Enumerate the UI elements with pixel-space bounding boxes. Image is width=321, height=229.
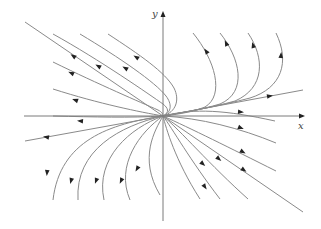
phase-portrait-diagram: y x xyxy=(0,0,321,229)
direction-arrow-icon xyxy=(240,166,248,173)
axes xyxy=(24,11,305,221)
trajectory-br-1 xyxy=(163,116,276,143)
trajectory-bl-4 xyxy=(125,116,163,200)
trajectory-tr-4 xyxy=(163,33,283,116)
direction-arrow-icon xyxy=(94,63,101,70)
trajectory-tr-1 xyxy=(163,33,216,116)
direction-arrow-icon xyxy=(68,178,74,185)
trajectory-br-4 xyxy=(163,116,220,199)
trajectory-tl-1 xyxy=(53,34,168,116)
direction-arrow-icon xyxy=(71,97,78,103)
trajectory-bl-5 xyxy=(149,116,163,195)
trajectory-tl-4 xyxy=(53,62,163,116)
direction-arrow-icon xyxy=(93,177,99,184)
direction-arrow-icon xyxy=(201,183,208,191)
direction-arrow-icon xyxy=(134,165,141,172)
direction-arrow-icon xyxy=(118,177,125,184)
direction-arrow-icon xyxy=(43,134,50,140)
y-axis-arrowhead-icon xyxy=(161,11,166,17)
y-axis-label: y xyxy=(152,8,158,19)
trajectory-tr-3 xyxy=(163,33,259,116)
trajectory-bl-2 xyxy=(78,116,163,200)
phase-plane xyxy=(0,0,321,229)
direction-arrow-icon xyxy=(121,65,128,72)
x-axis-arrowhead-icon xyxy=(299,114,305,119)
direction-arrow-icon xyxy=(199,160,207,167)
direction-arrow-icon xyxy=(77,118,83,123)
trajectory-tl-2 xyxy=(80,34,170,116)
trajectory-bl-1 xyxy=(53,116,163,200)
direction-arrow-icon xyxy=(44,170,49,176)
x-axis-label: x xyxy=(298,120,304,131)
trajectories xyxy=(25,22,303,212)
